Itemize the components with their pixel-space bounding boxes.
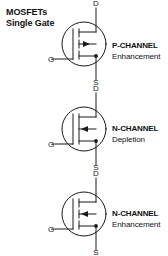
operating-mode-label: Enhancement [112,219,168,230]
source-terminal-label: S [93,248,98,255]
mosfet-symbol-p-channel-enhancement: D G S [48,0,120,85]
mosfet-entry-n-channel-depletion: D G S N-CHANNEL Depletion [0,85,168,170]
drain-terminal-label: D [93,0,99,8]
substrate-arrow-left [81,211,88,217]
mosfet-symbol-n-channel-enhancement: D G S [48,170,120,255]
substrate-arrow-right [83,41,90,47]
source-body-junction-dot [94,139,98,143]
mosfet-entry-n-channel-enhancement: D G S N-CHANNEL Enhancement [0,170,168,255]
source-terminal-label: S [93,78,98,85]
operating-mode-label: Enhancement [112,51,168,62]
substrate-arrow-left [81,126,88,132]
mosfet-entry-p-channel-enhancement: D G S P-CHANNEL Enhancement [0,0,168,85]
source-terminal-label: S [93,163,98,170]
mosfet-symbol-chart: MOSFETs Single Gate [0,0,168,256]
gate-terminal-label: G [48,55,54,64]
symbol-caption-p-channel-enhancement: P-CHANNEL Enhancement [112,40,168,62]
mosfet-symbol-n-channel-depletion: D G S [48,85,120,170]
channel-type-label: N-CHANNEL [112,208,168,219]
symbol-caption-n-channel-enhancement: N-CHANNEL Enhancement [112,208,168,230]
symbol-caption-n-channel-depletion: N-CHANNEL Depletion [112,123,168,145]
drain-terminal-label: D [93,170,99,178]
channel-type-label: P-CHANNEL [112,40,168,51]
channel-type-label: N-CHANNEL [112,123,168,134]
gate-terminal-label: G [48,225,54,234]
operating-mode-label: Depletion [112,134,168,145]
source-body-junction-dot [94,224,98,228]
gate-terminal-label: G [48,140,54,149]
source-body-junction-dot [94,54,98,58]
drain-terminal-label: D [93,85,99,93]
